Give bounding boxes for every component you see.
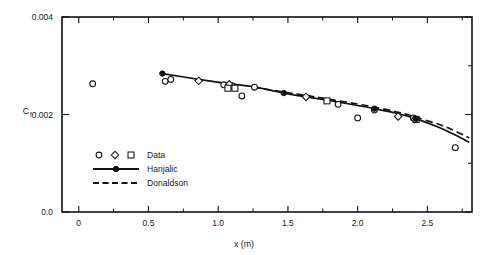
figure-container: 00.51.01.52.02.5 0.00.0020.004 DataHanja… (0, 0, 488, 255)
data-point-circle (162, 78, 168, 84)
y-tick-label: 0.002 (32, 110, 54, 120)
y-tick-label: 0.004 (32, 12, 54, 22)
data-point-circle (335, 101, 341, 107)
data-point-filled-circle (281, 90, 286, 95)
data-point-square (324, 98, 330, 104)
data-point-circle (90, 81, 96, 87)
x-tick-label: 0.5 (143, 218, 155, 228)
x-axis-tick-labels: 00.51.01.52.02.5 (76, 218, 433, 228)
data-point-square (225, 85, 231, 91)
x-tick-label: 2.5 (421, 218, 433, 228)
y-axis-label: C (23, 106, 30, 116)
data-point-square (232, 85, 238, 91)
x-tick-label: 1.0 (212, 218, 224, 228)
data-point-filled-circle (372, 106, 377, 111)
data-point-circle (96, 152, 102, 158)
chart-legend: DataHanjalicDonaldson (93, 150, 188, 188)
curve-hanjalic (162, 74, 469, 143)
model-curves (162, 74, 469, 143)
data-point-square (128, 152, 134, 158)
chart-svg: 00.51.01.52.02.5 0.00.0020.004 DataHanja… (0, 0, 488, 255)
x-axis-label: x (m) (234, 239, 254, 249)
data-points (90, 71, 458, 151)
legend-label-donaldson: Donaldson (147, 178, 188, 188)
y-tick-label: 0.0 (41, 207, 53, 217)
data-point-filled-circle (113, 166, 118, 171)
data-point-circle (452, 145, 458, 151)
data-point-filled-circle (160, 71, 165, 76)
y-axis-tick-labels: 0.00.0020.004 (32, 12, 54, 217)
data-point-circle (168, 77, 174, 83)
y-axis-label-subscript: f (30, 111, 32, 118)
x-tick-label: 2.0 (352, 218, 364, 228)
x-tick-label: 1.5 (282, 218, 294, 228)
data-point-circle (252, 84, 258, 90)
x-tick-label: 0 (76, 218, 81, 228)
data-point-filled-circle (414, 116, 419, 121)
data-point-diamond (111, 151, 118, 158)
legend-label-data: Data (147, 150, 165, 160)
legend-label-hanjalic: Hanjalic (147, 164, 178, 174)
data-point-circle (355, 115, 361, 121)
data-point-circle (239, 93, 245, 99)
